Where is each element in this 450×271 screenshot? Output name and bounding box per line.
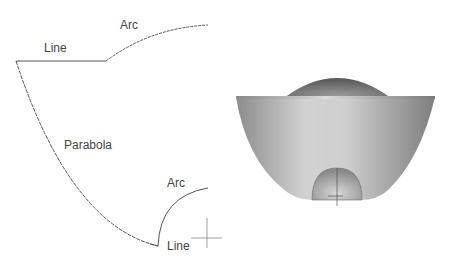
origin-crosshair-icon xyxy=(191,218,222,248)
revolved-solid xyxy=(236,78,435,206)
label-bottom-arc: Arc xyxy=(167,176,185,190)
bowl-rim-band xyxy=(236,96,435,99)
bottom-line-stub xyxy=(150,244,158,246)
parabola-segment xyxy=(16,61,158,246)
dome-cap xyxy=(284,78,391,98)
label-top-arc: Arc xyxy=(120,18,138,32)
profile-sketch xyxy=(16,25,208,246)
label-bottom-line: Line xyxy=(167,239,190,253)
bottom-arc-segment xyxy=(158,188,208,246)
diagram-canvas xyxy=(0,0,450,271)
label-top-line: Line xyxy=(44,41,67,55)
label-parabola: Parabola xyxy=(64,138,112,152)
